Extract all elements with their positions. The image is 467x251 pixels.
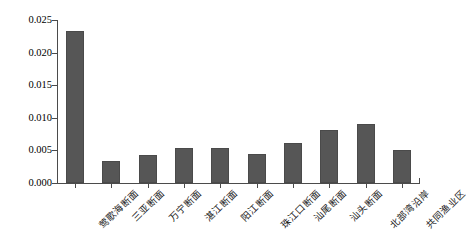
bar xyxy=(102,161,120,183)
x-axis-tick-label: 汕头断面 xyxy=(349,188,384,223)
bar xyxy=(211,148,229,183)
bar xyxy=(175,148,193,183)
y-axis-tick-label: 0.015 xyxy=(4,80,52,91)
y-axis-tick-label: 0.005 xyxy=(4,145,52,156)
bar xyxy=(66,31,84,183)
y-axis-tick-label: 0.000 xyxy=(4,178,52,189)
x-axis-tick-label: 湛江断面 xyxy=(204,188,239,223)
x-axis-tick-label: 阳江断面 xyxy=(240,188,275,223)
bar xyxy=(139,155,157,183)
x-axis-tick-label: 珠江口断面 xyxy=(279,188,321,230)
x-axis-tick-label: 万宁断面 xyxy=(167,188,202,223)
bar xyxy=(357,124,375,183)
bar xyxy=(393,150,411,183)
x-axis-labels: 莺歌海断面三亚断面万宁断面湛江断面阳江断面珠江口断面汕尾断面汕头断面北部湾沿岸共… xyxy=(57,188,428,251)
bar xyxy=(320,130,338,183)
bars-group xyxy=(57,20,420,183)
x-axis-tick-label: 北部湾沿岸 xyxy=(388,188,430,230)
y-axis-tick-label: 0.025 xyxy=(4,15,52,26)
bar xyxy=(248,154,266,183)
x-axis-tick-label: 莺歌海断面 xyxy=(98,188,140,230)
y-axis-tick-label: 0.020 xyxy=(4,48,52,59)
y-axis-tick-label: 0.010 xyxy=(4,113,52,124)
bar xyxy=(284,143,302,183)
